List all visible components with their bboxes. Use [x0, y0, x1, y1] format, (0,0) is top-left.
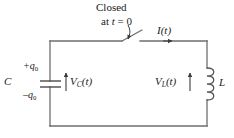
charge-negative-subscript: 0 [33, 94, 36, 101]
inductor-voltage-label: VL(t) [155, 76, 176, 89]
capacitor-voltage-label: VC(t) [70, 76, 92, 89]
charge-positive-label: +q0 [23, 61, 38, 73]
open-switch-icon [122, 30, 142, 41]
capacitor-plates-icon [40, 81, 61, 87]
current-argument: (t) [161, 24, 171, 36]
switch-callout-suffix: = 0 [115, 15, 132, 27]
switch-callout-line1: Closed [96, 2, 127, 13]
capacitor-voltage-symbol: V [70, 75, 77, 87]
lc-circuit-diagram: Closed at t = 0 I(t) C +q0 –q0 VC(t) VL(… [0, 0, 234, 138]
charge-negative-label: –q0 [23, 90, 36, 102]
capacitor-voltage-argument: (t) [82, 75, 92, 87]
capacitor-label: C [4, 76, 11, 87]
switch-callout-line2: at t = 0 [101, 16, 132, 27]
inductor-label: L [219, 77, 225, 88]
inductor-coil-icon [207, 68, 214, 100]
charge-negative-symbol: –q [23, 89, 33, 100]
current-label: I(t) [157, 25, 171, 36]
charge-positive-symbol: +q [23, 60, 35, 71]
inductor-voltage-symbol: V [155, 75, 162, 87]
charge-positive-subscript: 0 [35, 65, 38, 72]
switch-callout-prefix: at [101, 15, 112, 27]
inductor-voltage-argument: (t) [166, 75, 176, 87]
